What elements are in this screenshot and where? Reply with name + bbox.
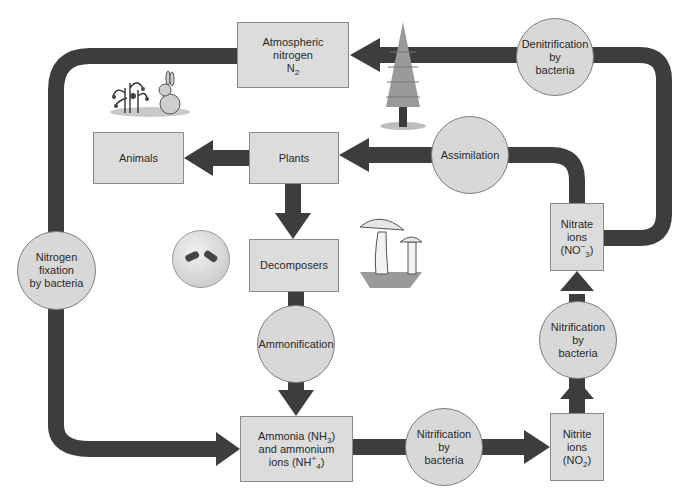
assimilation-circle: Assimilation (431, 116, 509, 194)
plants-label: Plants (279, 152, 310, 165)
plants-box: Plants (249, 132, 339, 184)
nitrification-right-circle: Nitrification by bacteria (539, 301, 617, 379)
n2-subscript: 2 (295, 68, 299, 77)
nitrification-right-line3: bacteria (558, 347, 597, 360)
n2-symbol: N (287, 62, 295, 74)
no3-close-paren: ) (590, 244, 594, 256)
denitrification-line2: by (549, 51, 561, 64)
ammonium-close-paren: ) (321, 456, 325, 468)
atmospheric-line2: nitrogen (273, 49, 313, 62)
arrowhead-to-atmospheric (350, 38, 380, 72)
arrowhead-to-plants (339, 138, 369, 172)
nitrification-right-line1: Nitrification (551, 321, 605, 334)
ammonification-label: Ammonification (258, 338, 333, 351)
no2-close-paren: ) (587, 454, 591, 466)
denitrification-line3: bacteria (535, 64, 574, 77)
nitrate-line3: (NO−3) (561, 244, 594, 257)
ammonia-close-paren: ) (331, 430, 335, 442)
nitrate-box: Nitrate ions (NO−3) (550, 203, 604, 271)
bacteria-icon (173, 231, 229, 287)
fixation-line1: Nitrogen (36, 251, 78, 264)
nitrite-line3: (NO2) (563, 454, 591, 467)
ammonia-text: Ammonia (NH (258, 430, 327, 442)
atmospheric-line3: N2 (287, 62, 299, 75)
ammonification-circle: Ammonification (257, 305, 335, 383)
arrowhead-to-animals (184, 140, 213, 176)
animals-box: Animals (93, 132, 184, 184)
animals-label: Animals (119, 152, 158, 165)
fixation-line2: fixation (39, 264, 74, 277)
ammonia-line1: Ammonia (NH3) (258, 430, 335, 443)
plant-and-rabbit-illustration (105, 68, 200, 118)
ammonia-line2: and ammonium (259, 443, 335, 456)
nitrification-bottom-line2: by (438, 441, 450, 454)
bacteria-dish-illustration (172, 230, 230, 288)
nitrification-bottom-line1: Nitrification (417, 428, 471, 441)
ammonium-text: ions (NH (269, 456, 312, 468)
ammonia-box: Ammonia (NH3) and ammonium ions (NH+4) (240, 416, 353, 482)
fixation-line3: by bacteria (30, 277, 84, 290)
atmospheric-line1: Atmospheric (262, 36, 323, 49)
denitrification-line1: Denitrification (522, 38, 589, 51)
pine-tree-illustration (378, 22, 428, 132)
arrowhead-to-ammonia-left (216, 432, 240, 466)
nitrification-bottom-line3: bacteria (424, 454, 463, 467)
arrowhead-to-ammonia-top (278, 390, 314, 416)
nitrite-box: Nitrite ions (NO2) (550, 413, 604, 481)
no3-text: (NO (561, 244, 581, 256)
denitrification-circle: Denitrification by bacteria (516, 18, 594, 96)
arrowhead-to-nitrite (524, 430, 550, 464)
nitrite-line1: Nitrite (563, 428, 592, 441)
assimilation-label: Assimilation (441, 149, 500, 162)
no2-text: (NO (563, 454, 583, 466)
atmospheric-nitrogen-box: Atmospheric nitrogen N2 (237, 22, 349, 88)
arrowhead-to-nitrate (560, 271, 594, 291)
nitrification-right-line2: by (572, 334, 584, 347)
nitrite-line2: ions (567, 441, 587, 454)
decomposers-label: Decomposers (260, 259, 328, 272)
decomposers-box: Decomposers (249, 239, 339, 292)
mushrooms-illustration (360, 212, 440, 290)
ammonia-line3: ions (NH+4) (269, 456, 325, 469)
nitrogen-fixation-circle: Nitrogen fixation by bacteria (17, 231, 96, 310)
arrowhead-to-decomposers (275, 213, 311, 239)
arrowhead-to-nitrification-right (560, 379, 594, 399)
nitrate-line1: Nitrate (561, 218, 593, 231)
nitrification-bottom-circle: Nitrification by bacteria (405, 408, 483, 486)
